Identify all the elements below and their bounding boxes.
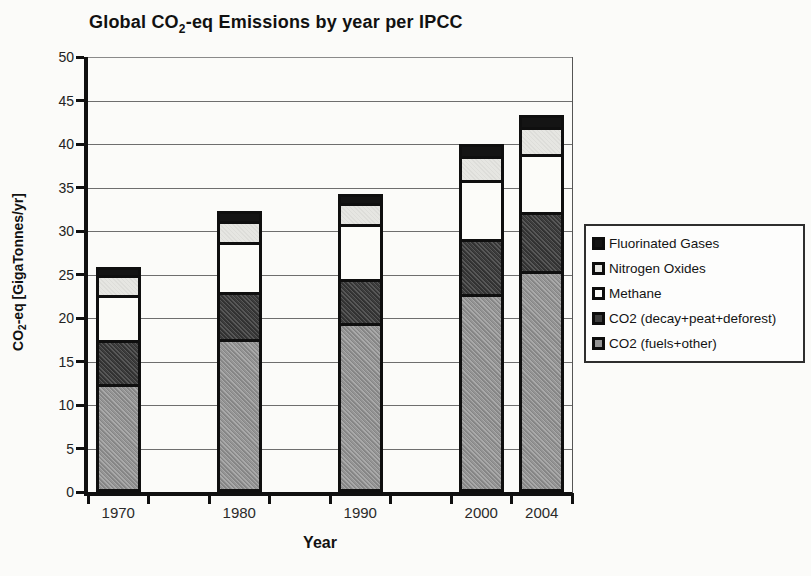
bar-segment-1990-methane	[341, 224, 380, 279]
chart-title-prefix: Global CO	[89, 12, 179, 32]
legend-box: Fluorinated GasesNitrogen OxidesMethaneC…	[584, 224, 805, 363]
y-axis-tick-label: 15	[38, 353, 74, 371]
legend-swatch-icon	[592, 312, 605, 325]
bar-1980	[217, 211, 262, 492]
y-axis-tick-label: 30	[38, 222, 74, 240]
y-axis-tick	[76, 230, 84, 233]
bar-segment-2000-methane	[462, 180, 501, 239]
y-axis-tick	[76, 360, 84, 363]
y-axis-tick-label: 0	[38, 483, 74, 501]
y-axis-tick	[76, 186, 84, 189]
legend-item: Methane	[592, 281, 797, 306]
bar-segment-1970-methane	[99, 295, 138, 340]
gridline-50	[88, 57, 572, 58]
bar-segment-2000-co2-decay-peat-deforest-	[462, 239, 501, 294]
bar-2000	[459, 144, 504, 492]
bar-segment-2000-nitrogen-oxides	[462, 156, 501, 180]
legend-item: Nitrogen Oxides	[592, 256, 797, 281]
legend-items: Fluorinated GasesNitrogen OxidesMethaneC…	[592, 231, 797, 356]
bar-1970	[96, 267, 141, 492]
bar-segment-2000-fluorinated-gases	[462, 147, 501, 156]
chart-title-subscript: 2	[179, 22, 186, 36]
y-axis-tick	[76, 99, 84, 102]
bar-segment-2004-methane	[522, 154, 561, 213]
y-axis-tick	[76, 56, 84, 59]
y-axis-tick-label: 50	[38, 48, 74, 66]
y-axis-title-prefix: CO	[10, 330, 26, 351]
bar-segment-2004-co2-decay-peat-deforest-	[522, 212, 561, 271]
y-axis-tick	[76, 143, 84, 146]
legend-item-label: CO2 (decay+peat+deforest)	[609, 311, 776, 326]
bar-segment-2000-co2-fuels-other-	[462, 294, 501, 489]
bar-segment-1980-co2-fuels-other-	[220, 339, 259, 489]
bar-2004	[519, 115, 564, 492]
bar-segment-2004-co2-fuels-other-	[522, 271, 561, 489]
chart-title: Global CO2-eq Emissions by year per IPCC	[89, 12, 463, 36]
y-axis-tick	[76, 273, 84, 276]
y-axis-tick	[76, 447, 84, 450]
gridline-45	[88, 101, 572, 102]
y-axis-tick-label: 45	[38, 92, 74, 110]
legend-item-label: Fluorinated Gases	[609, 236, 719, 251]
y-axis-tick-label: 35	[38, 179, 74, 197]
bar-segment-2004-nitrogen-oxides	[522, 127, 561, 153]
bar-segment-1970-nitrogen-oxides	[99, 275, 138, 295]
chart-title-suffix: -eq Emissions by year per IPCC	[186, 12, 463, 32]
y-axis-tick-label: 10	[38, 396, 74, 414]
y-axis-tick-label: 5	[38, 440, 74, 458]
bar-segment-1970-co2-decay-peat-deforest-	[99, 340, 138, 384]
x-axis-category-label: 1970	[83, 503, 153, 523]
x-axis-category-label: 1980	[204, 503, 274, 523]
legend-item: Fluorinated Gases	[592, 231, 797, 256]
bar-1990	[338, 194, 383, 492]
bar-segment-1970-co2-fuels-other-	[99, 384, 138, 489]
bar-segment-1980-co2-decay-peat-deforest-	[220, 292, 259, 338]
legend-item-label: Nitrogen Oxides	[609, 261, 706, 276]
x-axis-category-label: 2004	[507, 503, 577, 523]
bar-segment-1980-nitrogen-oxides	[220, 221, 259, 243]
legend-item-label: Methane	[609, 286, 662, 301]
y-axis-title-suffix: -eq [GigaTonnes/yr]	[10, 193, 26, 324]
y-axis-tick-label: 25	[38, 266, 74, 284]
legend-swatch-icon	[592, 237, 605, 250]
bar-segment-1990-co2-fuels-other-	[341, 323, 380, 490]
plot-area	[84, 57, 573, 496]
bar-segment-2004-fluorinated-gases	[522, 118, 561, 127]
bar-segment-1990-co2-decay-peat-deforest-	[341, 279, 380, 322]
y-axis-tick-label: 20	[38, 309, 74, 327]
legend-item: CO2 (decay+peat+deforest)	[592, 306, 797, 331]
y-axis-tick-label: 40	[38, 135, 74, 153]
y-axis-title: CO2-eq [GigaTonnes/yr]	[10, 193, 29, 351]
y-axis-tick	[76, 491, 84, 494]
bar-segment-1990-nitrogen-oxides	[341, 203, 380, 224]
x-axis-category-label: 1990	[325, 503, 395, 523]
chart-page: Global CO2-eq Emissions by year per IPCC…	[0, 0, 811, 576]
legend-item-label: CO2 (fuels+other)	[609, 336, 717, 351]
y-axis-title-subscript: 2	[17, 324, 28, 330]
legend-swatch-icon	[592, 262, 605, 275]
x-axis-title: Year	[240, 534, 400, 552]
legend-swatch-icon	[592, 337, 605, 350]
bar-segment-1980-methane	[220, 242, 259, 292]
x-axis-category-label: 2000	[446, 503, 516, 523]
y-axis-tick	[76, 404, 84, 407]
y-axis-tick	[76, 317, 84, 320]
legend-swatch-icon	[592, 287, 605, 300]
legend-item: CO2 (fuels+other)	[592, 331, 797, 356]
